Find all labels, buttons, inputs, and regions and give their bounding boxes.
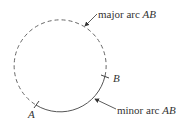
minor-arc xyxy=(36,76,105,112)
major-arc-label: major arc AB xyxy=(98,8,156,20)
arc-diagram: major arc AB minor arc AB B A xyxy=(0,0,183,125)
minor-arc-label: minor arc AB xyxy=(117,104,176,116)
major-arc xyxy=(14,20,106,105)
point-a-label: A xyxy=(27,108,35,120)
point-b-label: B xyxy=(113,72,120,84)
major-arc-pointer xyxy=(85,14,97,26)
minor-arc-pointer xyxy=(95,99,116,109)
